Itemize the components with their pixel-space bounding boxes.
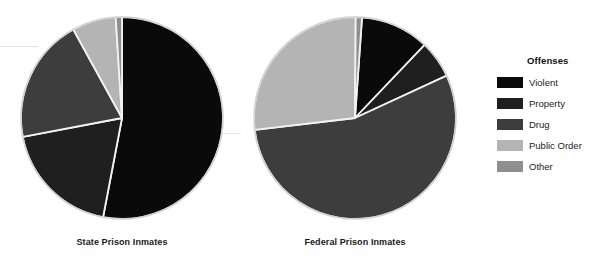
legend-item-label: Other — [529, 161, 553, 172]
legend-item-drug[interactable]: Drug — [497, 115, 595, 133]
legend-item-property[interactable]: Property — [497, 94, 595, 112]
legend-item-label: Public Order — [529, 140, 582, 151]
legend-title: Offenses — [527, 55, 595, 66]
legend-swatch-icon — [497, 119, 523, 130]
legend-swatch-icon — [497, 161, 523, 172]
legend-swatch-icon — [497, 98, 523, 109]
legend-rows: ViolentPropertyDrugPublic OrderOther — [497, 73, 595, 175]
pie-caption-federal: Federal Prison Inmates — [255, 237, 455, 247]
legend-item-label: Property — [529, 98, 565, 109]
pie-chart-state-prison-inmates — [17, 13, 227, 223]
pie-chart-figure: State Prison Inmates Federal Prison Inma… — [0, 0, 597, 260]
pie-svg — [17, 13, 227, 223]
legend-item-label: Drug — [529, 119, 550, 130]
legend-item-label: Violent — [529, 77, 558, 88]
pie-chart-federal-prison-inmates — [250, 13, 460, 223]
pie-slice-public-order[interactable] — [254, 17, 356, 130]
legend-item-other[interactable]: Other — [497, 157, 595, 175]
pie-caption-state: State Prison Inmates — [22, 237, 222, 247]
legend-item-violent[interactable]: Violent — [497, 73, 595, 91]
legend-swatch-icon — [497, 77, 523, 88]
chart-legend: Offenses ViolentPropertyDrugPublic Order… — [497, 55, 595, 178]
pie-svg — [250, 13, 460, 223]
legend-item-public-order[interactable]: Public Order — [497, 136, 595, 154]
legend-swatch-icon — [497, 140, 523, 151]
